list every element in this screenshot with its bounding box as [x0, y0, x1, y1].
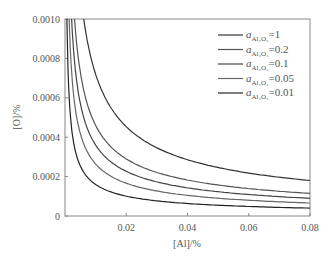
y-tick-label: 0.0006: [33, 92, 61, 103]
legend-label: aAl₂O₃=1: [246, 28, 280, 43]
legend-label: aAl₂O₃=0.01: [246, 86, 294, 101]
x-tick-label: 0.02: [118, 222, 136, 233]
y-tick-label: 0.0002: [33, 171, 61, 182]
x-tick-label: 0.06: [240, 222, 258, 233]
y-tick-label: 0: [55, 211, 60, 222]
x-tick-label: 0.08: [301, 222, 319, 233]
y-axis-label: [O]/%: [11, 105, 22, 130]
legend-label: aAl₂O₃=0.05: [246, 72, 294, 87]
chart: 00.00020.00040.00060.00080.00100.020.040…: [0, 0, 336, 260]
legend-label: aAl₂O₃=0.2: [246, 43, 288, 58]
y-tick-label: 0.0010: [33, 14, 61, 25]
x-axis-label: [Al]/%: [173, 238, 201, 249]
y-tick-label: 0.0008: [33, 53, 61, 64]
x-tick-label: 0.04: [179, 222, 197, 233]
legend-label: aAl₂O₃=0.1: [246, 57, 288, 72]
y-tick-label: 0.0004: [33, 132, 61, 143]
